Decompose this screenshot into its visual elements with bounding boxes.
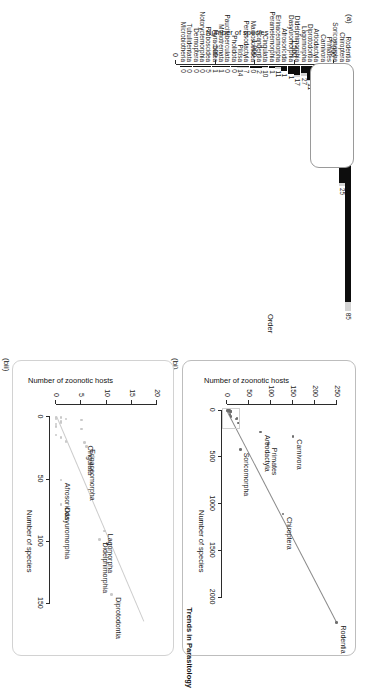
scatter-point <box>239 448 242 451</box>
bar-segment-nonzoonotic <box>288 66 294 74</box>
scatter-point-label: Artiodactyla <box>264 435 271 472</box>
x-tick <box>46 479 50 480</box>
scatter-point <box>55 425 58 428</box>
bar-category-label: Microbiotheria <box>180 22 186 62</box>
x-tick <box>46 603 50 604</box>
scatter-point-label: Diprotodontia <box>115 597 122 639</box>
x-tick <box>46 416 50 417</box>
panel-a-x-axis-title: Order <box>266 314 275 333</box>
table-row <box>269 66 275 324</box>
bar-segment-nonzoonotic <box>282 66 288 71</box>
inset-region-marker <box>222 408 241 430</box>
table-row <box>212 66 218 324</box>
scatter-point <box>282 513 285 516</box>
bar-value-label: 0 <box>180 69 186 73</box>
scatter-point <box>60 420 63 423</box>
bar-segment-zoonotic <box>243 67 249 68</box>
x-tick-label: 0 <box>209 408 216 412</box>
panel-a-bar-chart: (a) Number of species 0 500 1,000 1,500 … <box>2 14 354 344</box>
table-row <box>180 66 186 324</box>
scatter-point <box>83 441 86 444</box>
bar-segment-tick <box>224 66 230 67</box>
bar-segment-nonzoonotic <box>256 66 262 68</box>
panel-a-y-tick-0 <box>175 60 176 64</box>
bar-segment-tick <box>199 66 205 67</box>
panel-a-y-label-0: 0 <box>172 47 179 57</box>
panel-bii-y-axis-title: Number of zoonotic hosts <box>28 376 113 385</box>
y-tick <box>336 400 337 404</box>
scatter-point <box>80 419 83 422</box>
bar-segment-tick <box>186 66 192 67</box>
y-tick <box>270 400 271 404</box>
scatter-point-label: Rodentia <box>340 626 347 654</box>
x-tick <box>46 541 50 542</box>
scatter-point <box>110 593 113 596</box>
x-tick-label: 0 <box>37 414 44 418</box>
x-tick-label: 2000 <box>209 589 216 605</box>
scatter-point-label: Carnivora <box>296 439 303 469</box>
x-tick-label: 100 <box>37 535 44 547</box>
panel-bi-y-axis-title: Number of zoonotic hosts <box>204 376 289 385</box>
y-tick <box>292 400 293 404</box>
scatter-point-label: Soricomorpha <box>243 453 250 497</box>
table-row <box>250 66 256 324</box>
bar-segment-nonzoonotic <box>269 66 275 68</box>
y-tick-label: 5 <box>78 393 85 397</box>
journal-watermark: Trends in Parasitology <box>185 608 194 688</box>
table-row <box>186 66 192 324</box>
x-axis-line <box>49 416 50 602</box>
scatter-point <box>55 434 58 437</box>
panel-bii-plot-area: 05010015005101520DiprotodontiaLagomorpha… <box>50 404 162 634</box>
table-row <box>231 66 237 324</box>
table-row <box>301 66 307 324</box>
y-tick-label: 0 <box>53 393 60 397</box>
x-tick <box>218 456 222 457</box>
bar-segment-tick <box>180 66 186 67</box>
y-tick <box>248 400 249 404</box>
x-tick-label: 150 <box>37 597 44 609</box>
y-tick <box>226 400 227 404</box>
table-row <box>193 66 199 324</box>
y-tick <box>314 400 315 404</box>
bar-value-label: 85 <box>345 313 351 320</box>
panel-bi-x-axis-title: Number of species <box>197 510 206 573</box>
table-row <box>288 66 294 324</box>
panel-bi-plot-area: 0500100015002000050100150200250RodentiaC… <box>222 404 342 634</box>
table-row <box>243 66 249 324</box>
y-tick-label: 10 <box>103 389 110 397</box>
table-row <box>275 66 281 324</box>
table-row <box>256 66 262 324</box>
scatter-point <box>60 416 63 419</box>
table-row <box>262 66 268 324</box>
panel-bii-tag: (bii) <box>2 358 11 371</box>
y-tick-label: 0 <box>224 393 231 397</box>
bar-segment-tick <box>218 66 224 67</box>
y-tick-label: 200 <box>311 385 318 397</box>
scatter-point <box>103 530 106 533</box>
y-tick-label: 50 <box>246 389 253 397</box>
scatter-point-label: Primates <box>271 448 278 476</box>
y-tick <box>106 400 107 404</box>
y-tick-label: 20 <box>153 389 160 397</box>
scatter-point <box>60 503 63 506</box>
scatter-point-label: Didelphimorphia <box>102 543 109 594</box>
y-tick-label: 15 <box>128 389 135 397</box>
x-tick <box>218 503 222 504</box>
bar-segment-zoonotic <box>275 67 281 68</box>
y-tick-label: 100 <box>268 385 275 397</box>
scatter-point-label: Cingulata <box>87 446 94 476</box>
table-row <box>237 66 243 324</box>
bar-segment-tick <box>231 66 237 67</box>
x-tick-label: 50 <box>37 475 44 483</box>
bar-segment-nonzoonotic <box>294 66 300 75</box>
bar-value-label: 25 <box>338 188 344 195</box>
y-tick <box>131 400 132 404</box>
x-tick-label: 1500 <box>209 542 216 558</box>
bar-segment-zoonotic <box>301 73 307 76</box>
bar-segment-nonzoonotic <box>301 66 307 73</box>
bar-segment-zoonotic <box>345 302 351 311</box>
scatter-point <box>65 418 68 421</box>
panel-a-tag: (a) <box>345 14 354 24</box>
bar-segment-tick <box>212 66 218 67</box>
y-tick <box>80 400 81 404</box>
